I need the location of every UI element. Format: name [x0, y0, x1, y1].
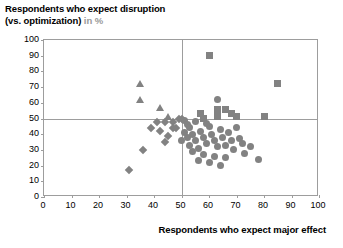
x-axis-tick: [72, 195, 73, 198]
y-axis-tick: [41, 181, 44, 182]
data-point-triangle: [136, 96, 144, 103]
data-point-circle: [192, 118, 199, 125]
x-axis-tick-label: 40: [138, 200, 168, 210]
data-point-circle: [233, 124, 240, 131]
page-title: Respondents who expect disruption (vs. o…: [5, 3, 335, 26]
data-point-circle: [203, 140, 210, 147]
y-axis-tick-labels: 0102030405060708090100: [0, 39, 39, 196]
x-axis-tick-label: 10: [56, 200, 86, 210]
y-axis-tick-label: 20: [3, 160, 39, 170]
y-axis-tick-label: 90: [3, 50, 39, 60]
x-axis-tick: [264, 195, 265, 198]
data-point-diamond: [155, 127, 163, 135]
y-axis-tick: [41, 87, 44, 88]
x-axis-tick-label: 100: [303, 200, 333, 210]
x-axis-tick-label: 0: [28, 200, 58, 210]
data-point-circle: [206, 159, 213, 166]
y-axis-tick-label: 10: [3, 175, 39, 185]
y-axis-tick-label: 80: [3, 65, 39, 75]
y-axis-tick: [41, 119, 44, 120]
data-point-circle: [200, 151, 207, 158]
x-axis-tick-label: 60: [193, 200, 223, 210]
data-point-circle: [230, 146, 237, 153]
data-point-circle: [214, 96, 221, 103]
data-point-circle: [189, 148, 196, 155]
data-point-square: [214, 106, 221, 113]
x-axis-tick-label: 90: [276, 200, 306, 210]
data-point-circle: [241, 150, 248, 157]
y-axis-tick-label: 50: [3, 113, 39, 123]
data-point-circle: [203, 120, 210, 127]
x-axis-tick-label: 70: [221, 200, 251, 210]
data-point-circle: [211, 153, 218, 160]
plot-area: [44, 40, 317, 195]
x-axis-tick-label: 30: [111, 200, 141, 210]
data-point-triangle: [136, 80, 144, 87]
x-axis-tick: [44, 195, 45, 198]
y-axis-tick: [41, 166, 44, 167]
y-axis-tick: [41, 150, 44, 151]
data-point-circle: [247, 143, 254, 150]
data-point-circle: [214, 143, 221, 150]
y-axis-tick-label: 60: [3, 97, 39, 107]
data-point-square: [274, 80, 281, 87]
plot-frame: [43, 39, 318, 196]
x-axis-tick: [127, 195, 128, 198]
data-point-circle: [217, 126, 224, 133]
data-point-triangle: [156, 104, 164, 111]
data-point-square: [214, 113, 221, 120]
data-point-circle: [178, 137, 185, 144]
x-axis-title: Respondents who expect major effect: [43, 224, 326, 235]
y-axis-tick: [41, 40, 44, 41]
y-axis-tick-label: 100: [3, 34, 39, 44]
y-axis-tick: [41, 71, 44, 72]
x-axis-tick: [237, 195, 238, 198]
x-axis-tick: [154, 195, 155, 198]
y-axis-tick: [41, 134, 44, 135]
data-point-square: [261, 113, 268, 120]
x-axis-tick: [319, 195, 320, 198]
data-point-circle: [217, 162, 224, 169]
x-axis-tick: [99, 195, 100, 198]
x-axis-tick: [292, 195, 293, 198]
y-axis-tick-label: 40: [3, 128, 39, 138]
data-point-diamond: [139, 146, 147, 154]
data-point-circle: [192, 137, 199, 144]
title-line-2-bold: (vs. optimization): [5, 15, 81, 26]
data-point-circle: [228, 137, 235, 144]
x-axis-tick: [182, 195, 183, 198]
data-point-diamond: [125, 166, 133, 174]
x-axis-tick-label: 80: [248, 200, 278, 210]
data-point-circle: [195, 157, 202, 164]
data-point-diamond: [147, 124, 155, 132]
x-axis-tick-label: 20: [83, 200, 113, 210]
y-axis-tick-label: 30: [3, 144, 39, 154]
data-point-square: [206, 52, 213, 59]
y-axis-tick: [41, 56, 44, 57]
data-point-circle: [222, 154, 229, 161]
title-line-1: Respondents who expect disruption: [5, 3, 165, 14]
x-axis-tick-labels: 0102030405060708090100: [43, 200, 318, 214]
data-point-circle: [239, 140, 246, 147]
x-axis-tick: [209, 195, 210, 198]
y-axis-tick-label: 70: [3, 81, 39, 91]
data-point-circle: [225, 129, 232, 136]
title-units: in %: [84, 15, 103, 26]
data-point-circle: [255, 156, 262, 163]
y-axis-tick: [41, 103, 44, 104]
data-point-square: [233, 113, 240, 120]
x-axis-tick-label: 50: [166, 200, 196, 210]
